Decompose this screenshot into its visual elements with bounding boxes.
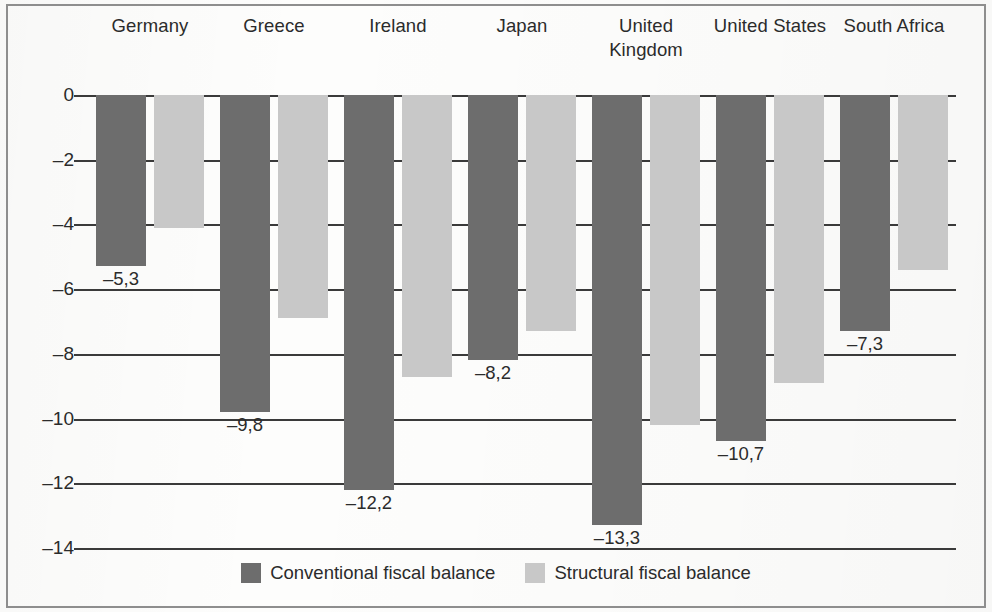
y-tick-label: –4	[28, 213, 74, 235]
fiscal-balance-chart-figure: GermanyGreeceIrelandJapanUnited KingdomU…	[0, 0, 992, 612]
y-tick-label: –14	[28, 537, 74, 559]
bar-greece-structural	[278, 95, 328, 318]
gridline-0	[88, 95, 956, 97]
chart-legend: Conventional fiscal balanceStructural fi…	[0, 562, 992, 584]
legend-swatch-light	[525, 563, 545, 583]
y-tick-label: 0	[28, 84, 74, 106]
bar-japan-conventional	[468, 95, 518, 360]
bar-germany-structural	[154, 95, 204, 228]
y-tick-label: –2	[28, 149, 74, 171]
legend-label: Structural fiscal balance	[554, 562, 750, 584]
gridline-neg6	[88, 289, 956, 291]
bar-south-africa-structural	[898, 95, 948, 270]
category-axis-labels: GermanyGreeceIrelandJapanUnited KingdomU…	[0, 14, 992, 80]
bar-value-label: –13,3	[576, 527, 658, 549]
legend-label: Conventional fiscal balance	[270, 562, 495, 584]
bar-united-states-conventional	[716, 95, 766, 441]
bar-value-label: –10,7	[700, 443, 782, 465]
bar-japan-structural	[526, 95, 576, 331]
y-tick-label: –12	[28, 472, 74, 494]
bar-united-states-structural	[774, 95, 824, 383]
legend-swatch-dark	[241, 563, 261, 583]
gridline-neg2	[88, 160, 956, 162]
bar-value-label: –8,2	[452, 362, 534, 384]
category-label-south-africa: South Africa	[818, 14, 970, 38]
legend-item-structural: Structural fiscal balance	[525, 562, 750, 584]
y-tick-label: –8	[28, 343, 74, 365]
bar-value-label: –12,2	[328, 492, 410, 514]
y-tick-label: –10	[28, 408, 74, 430]
bar-value-label: –7,3	[824, 333, 906, 355]
bar-ireland-structural	[402, 95, 452, 377]
plot-area: –5,3–9,8–12,2–8,2–13,3–10,7–7,3	[88, 95, 956, 548]
tick-mark	[74, 354, 88, 356]
tick-mark	[74, 224, 88, 226]
bar-united-kingdom-conventional	[592, 95, 642, 525]
gridline-neg4	[88, 224, 956, 226]
y-tick-label: –6	[28, 278, 74, 300]
bar-value-label: –9,8	[204, 414, 286, 436]
gridline-neg14	[88, 548, 956, 550]
bar-greece-conventional	[220, 95, 270, 412]
bar-south-africa-conventional	[840, 95, 890, 331]
tick-mark	[74, 548, 88, 550]
bar-united-kingdom-structural	[650, 95, 700, 425]
bar-value-label: –5,3	[80, 268, 162, 290]
tick-mark	[74, 160, 88, 162]
legend-item-conventional: Conventional fiscal balance	[241, 562, 495, 584]
tick-mark	[74, 289, 88, 291]
gridline-neg12	[88, 483, 956, 485]
tick-mark	[74, 95, 88, 97]
bar-germany-conventional	[96, 95, 146, 266]
bar-ireland-conventional	[344, 95, 394, 490]
tick-mark	[74, 483, 88, 485]
tick-mark	[74, 419, 88, 421]
y-axis-tick-labels: 0–2–4–6–8–10–12–14	[14, 95, 74, 548]
